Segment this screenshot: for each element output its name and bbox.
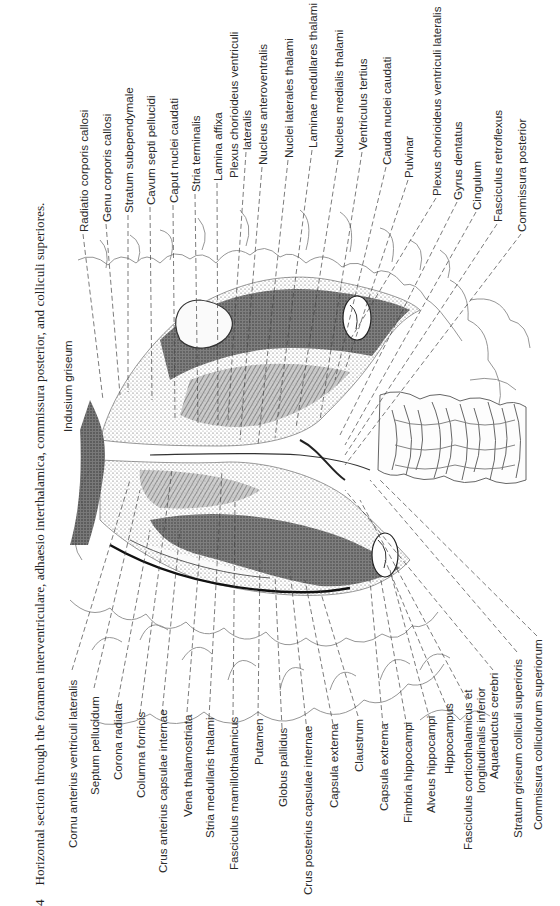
label-putamen: Putamen — [252, 719, 265, 765]
label-cornu-anterius-ventriculi-lateralis: Cornu anterius ventriculi lateralis — [66, 680, 79, 848]
label-laminae-medullares-thalami: Laminae medullares thalami — [306, 3, 319, 148]
label-commissura-posterior: Commissura posterior — [515, 119, 528, 232]
label-septum-pellucidum: Septum pellucidum — [88, 696, 101, 795]
label-fasciculus-mamillothalamicus: Fasciculus mamillothalamicus — [227, 717, 240, 870]
label-nucleus-anteroventralis: Nucleus anteroventralis — [256, 44, 269, 165]
label-columna-fornicis: Columna fornicis — [134, 712, 147, 798]
label-plexus-chorioideus-ventriculi-lateralis: Plexus chorioideus ventriculi lateralis — [430, 7, 443, 196]
label-fasciculus-corticothalamicus: Fasciculus corticothalamicus et — [461, 690, 474, 850]
label-nucleus-medialis-thalami: Nucleus medialis thalami — [332, 30, 345, 158]
label-vena-thalamostriata: Vena thalamostriata — [181, 715, 194, 817]
label-plexus-lateralis: lateralis — [240, 110, 253, 150]
right-hemisphere-section — [100, 277, 420, 446]
figure-caption: 4Horizontal section through the foramen … — [32, 203, 48, 906]
figure-caption-text: Horizontal section through the foramen i… — [32, 203, 47, 886]
label-indusium-griseum: Indusium griseum — [61, 341, 74, 433]
label-fasciculus-retroflexus: Fasciculus retroflexus — [491, 110, 504, 222]
label-plexus-chorioideus-ventriculi: Plexus chorioideus ventriculi — [227, 32, 240, 178]
label-alveus-hippocampi: Alveus hippocampi — [424, 716, 437, 813]
label-aquaeductus-cerebri: Aquaeductus cerebri — [487, 673, 500, 779]
left-hemisphere-section — [100, 460, 410, 595]
label-caput-nuclei-caudati: Caput nuclei caudati — [167, 98, 180, 203]
label-cavum-septi-pellucidi: Cavum septi pellucidi — [144, 95, 157, 205]
label-nuclei-laterales-thalami: Nuclei laterales thalami — [282, 38, 295, 158]
label-fimbria-hippocampi: Fimbria hippocampi — [401, 722, 414, 823]
cerebellum-folia — [378, 392, 526, 484]
label-radiatio-corporis-callosi: Radiatio corporis callosi — [77, 110, 90, 232]
label-commissura-colliculorum-superiorum: Commissura colliculorum superiorum — [531, 639, 544, 830]
label-genu-corporis-callosi: Genu corporis callosi — [100, 114, 113, 222]
label-capsula-externa: Capsula externa — [327, 724, 340, 808]
figure-number: 4 — [32, 899, 47, 906]
label-capsula-extrema: Capsula extrema — [377, 723, 390, 811]
label-gyrus-dentatus: Gyrus dentatus — [451, 121, 464, 200]
label-claustrum: Claustrum — [352, 719, 365, 772]
label-lamina-affixa: Lamina affixa — [211, 112, 224, 181]
label-ventriculus-tertius: Ventriculus tertius — [356, 58, 369, 150]
label-hippocampus: Hippocampus — [442, 703, 455, 774]
label-cingulum: Cingulum — [470, 161, 483, 210]
label-cauda-nuclei-caudati: Cauda nuclei caudati — [380, 57, 393, 165]
label-stria-medullaris-thalami: Stria medullaris thalami — [203, 718, 216, 839]
label-stratum-subependymale: Stratum subependymale — [122, 87, 135, 213]
label-crus-posterius-capsulae-internae: Crus posterius capsulae internae — [301, 726, 314, 896]
label-longitudinalis-inferior: longitudinalis inferior — [474, 687, 487, 793]
label-stria-terminalis: Stria terminalis — [189, 115, 202, 192]
label-stratum-griseum-colliculi-superioris: Stratum griseum colliculi superioris — [511, 659, 524, 838]
label-crus-anterius-capsulae-internae: Crus anterius capsulae internae — [156, 709, 169, 873]
label-globus-pallidus: Globus pallidus — [276, 728, 289, 807]
label-corona-radiata: Corona radiata — [111, 703, 124, 780]
label-pulvinar: Pulvinar — [402, 136, 415, 178]
